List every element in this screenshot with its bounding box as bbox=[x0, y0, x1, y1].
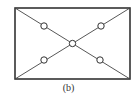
lower-left-node bbox=[41, 57, 47, 63]
upper-right-node bbox=[98, 23, 104, 29]
lower-right-node bbox=[97, 57, 103, 63]
figure-caption: (b) bbox=[0, 82, 137, 93]
center-node bbox=[69, 40, 75, 46]
upper-left-node bbox=[41, 23, 47, 29]
